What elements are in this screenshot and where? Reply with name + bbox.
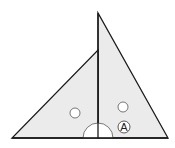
- label-a: A: [120, 121, 128, 133]
- angle-mark-circle-left: [70, 108, 80, 118]
- angle-mark-circle-right: [118, 102, 128, 112]
- left-triangle: [12, 50, 98, 138]
- right-triangle: [98, 13, 168, 138]
- geometry-diagram: A: [0, 0, 175, 148]
